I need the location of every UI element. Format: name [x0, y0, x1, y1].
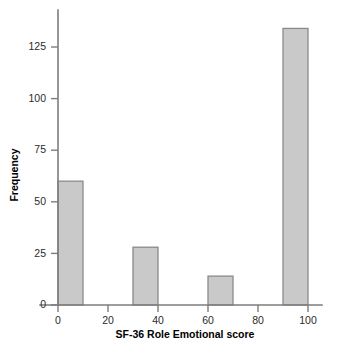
x-tick-label: 20 — [102, 314, 114, 326]
y-axis-title: Frequency — [8, 148, 20, 201]
histogram-svg: 0255075100125 020406080100 SF-36 Role Em… — [0, 0, 343, 352]
histogram-bar — [208, 276, 233, 305]
y-axis-ticks: 0255075100125 — [28, 40, 58, 310]
x-tick-label: 60 — [202, 314, 214, 326]
y-tick-label: 50 — [34, 195, 46, 207]
y-tick-label: 75 — [34, 143, 46, 155]
x-tick-label: 100 — [299, 314, 317, 326]
x-tick-label: 80 — [252, 314, 264, 326]
histogram-chart: 0255075100125 020406080100 SF-36 Role Em… — [0, 0, 343, 352]
histogram-bar — [133, 247, 158, 305]
y-tick-label: 25 — [34, 247, 46, 259]
y-tick-label: 125 — [28, 40, 46, 52]
x-axis-ticks: 020406080100 — [55, 305, 317, 326]
y-tick-label: 100 — [28, 92, 46, 104]
x-axis-title: SF-36 Role Emotional score — [116, 328, 255, 340]
histogram-bar — [58, 181, 83, 305]
y-tick-label: 0 — [40, 298, 46, 310]
bars-group — [58, 28, 308, 305]
histogram-bar — [283, 28, 308, 305]
x-tick-label: 0 — [55, 314, 61, 326]
x-tick-label: 40 — [152, 314, 164, 326]
